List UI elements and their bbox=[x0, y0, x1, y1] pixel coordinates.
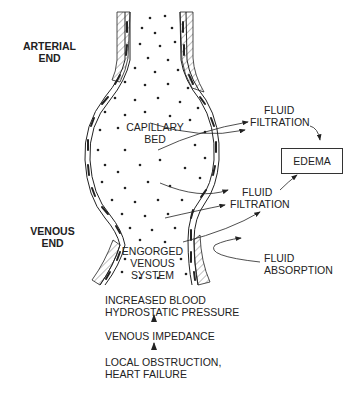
edema-box: EDEMA bbox=[281, 148, 343, 174]
label-capillary-bed: CAPILLARY BED bbox=[125, 121, 185, 145]
arrow-filtration-lower-3 bbox=[183, 212, 260, 242]
chain-step-local-obstruction: LOCAL OBSTRUCTION, HEART FAILURE bbox=[105, 356, 221, 380]
arrow-to-edema-1 bbox=[310, 126, 320, 140]
label-fluid-filtration-lower: FLUID FILTRATION bbox=[230, 186, 290, 210]
chain-step-increased-pressure: INCREASED BLOOD HYDROSTATIC PRESSURE bbox=[105, 294, 239, 318]
arrow-filtration-lower-1 bbox=[160, 183, 228, 194]
label-venous-end: VENOUS END bbox=[25, 225, 80, 249]
label-arterial-end: ARTERIAL END bbox=[22, 40, 77, 64]
chain-step-venous-impedance: VENOUS IMPEDANCE bbox=[105, 330, 215, 342]
venous-wall-right bbox=[194, 235, 210, 285]
arrow-absorption bbox=[213, 238, 260, 262]
label-engorged-venous-system: ENGORGED VENOUS SYSTEM bbox=[120, 245, 185, 281]
label-fluid-absorption: FLUID ABSORPTION bbox=[264, 252, 333, 276]
label-fluid-filtration-upper: FLUID FILTRATION bbox=[250, 104, 310, 128]
